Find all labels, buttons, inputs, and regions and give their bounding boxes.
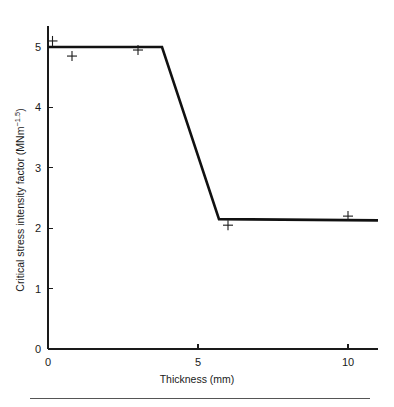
x-tick-label: 10 [342, 356, 354, 368]
y-tick-label: 4 [35, 101, 41, 113]
y-tick-label: 5 [35, 41, 41, 53]
y-tick-label: 2 [35, 222, 41, 234]
y-axis-title-main: Critical stress intensity factor (MNm [14, 126, 26, 291]
chart-background [0, 0, 394, 407]
y-axis-title-close: ) [14, 108, 26, 112]
x-axis-title: Thickness (mm) [160, 373, 235, 385]
y-tick-label: 3 [35, 162, 41, 174]
chart-figure: 012345 0510 Thickness (mm) Critical stre… [0, 0, 394, 407]
x-tick-label: 5 [195, 356, 201, 368]
y-tick-label: 0 [35, 343, 41, 355]
chart-plot-area: 012345 0510 Thickness (mm) Critical stre… [0, 0, 394, 407]
y-tick-label: 1 [35, 283, 41, 295]
y-axis-title: Critical stress intensity factor (MNm−1.… [13, 108, 27, 291]
x-tick-label: 0 [45, 356, 51, 368]
y-axis-title-exponent: −1.5 [13, 112, 22, 127]
